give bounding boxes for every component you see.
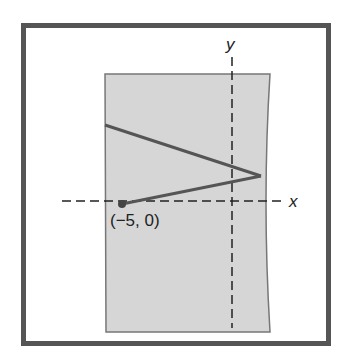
diagram-canvas: y x (−5, 0): [0, 0, 352, 360]
y-axis-label: y: [225, 35, 236, 54]
point-label: (−5, 0): [110, 211, 160, 230]
point-marker: [118, 200, 126, 208]
x-axis-label: x: [288, 192, 298, 211]
